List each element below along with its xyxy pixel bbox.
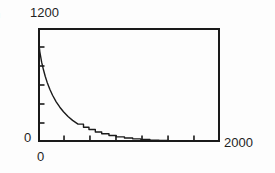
x-axis-min-label: 0 <box>37 150 44 164</box>
axis-frame <box>39 29 219 141</box>
data-series-decay <box>38 30 220 142</box>
x-axis-max-label: 2000 <box>224 136 253 150</box>
plot-svg <box>38 28 220 142</box>
y-axis-max-label: 1200 <box>30 6 59 20</box>
plot-area <box>38 28 220 142</box>
figure-panel: ) 1200 0 0 2000 <box>0 0 275 173</box>
y-axis-min-label: 0 <box>24 131 31 145</box>
